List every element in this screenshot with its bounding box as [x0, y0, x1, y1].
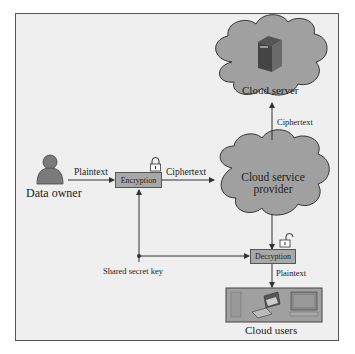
plaintext-label-2: Plaintext	[276, 268, 306, 278]
ciphertext-label-1: Ciphertext	[166, 167, 206, 177]
phone-icon	[231, 292, 241, 317]
shared-secret-key-label: Shared secret key	[103, 266, 163, 276]
cloud-server-label: Cloud server	[242, 84, 299, 96]
desktop-icon	[290, 292, 318, 316]
decryption-box: Decryption	[250, 249, 296, 264]
ciphertext-label-2: Ciphertext	[277, 117, 313, 127]
plaintext-label-1: Plaintext	[74, 167, 108, 177]
person-icon	[37, 155, 63, 184]
lock-open-icon	[280, 234, 293, 248]
cloud-users-label: Cloud users	[245, 324, 297, 336]
key-junction-dot	[137, 254, 141, 258]
data-owner-label: Data owner	[26, 186, 82, 201]
cloud-service-provider-label: Cloud service provider	[241, 171, 305, 195]
encryption-box: Encryption	[115, 172, 162, 188]
server-icon	[258, 36, 282, 72]
lock-closed-icon	[151, 158, 161, 171]
